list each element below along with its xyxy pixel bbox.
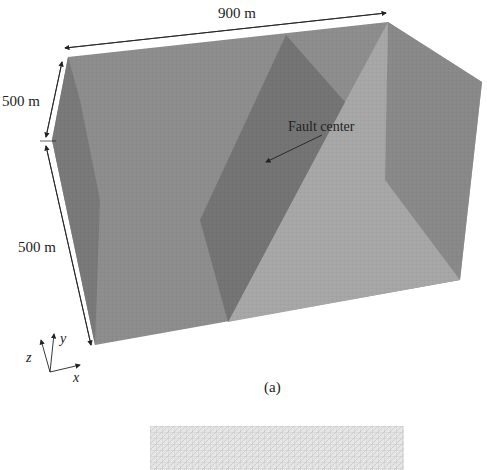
height-lower-label: 500 m [18,239,56,255]
panel-label: (a) [264,379,281,396]
length-label: 900 m [218,5,256,21]
z-axis-label: z [25,350,32,365]
dimension-height-upper: 500 m [2,62,62,141]
axes-triad: z y x [25,331,80,385]
model-block [52,22,482,345]
x-axis-label: x [72,370,80,385]
model-diagram: 900 m 500 m 500 m Fault center z y x (a) [0,0,487,470]
height-upper-label: 500 m [2,93,40,109]
fault-center-label: Fault center [288,119,355,134]
y-axis-label: y [58,331,67,346]
mesh-panel-b [150,426,404,470]
